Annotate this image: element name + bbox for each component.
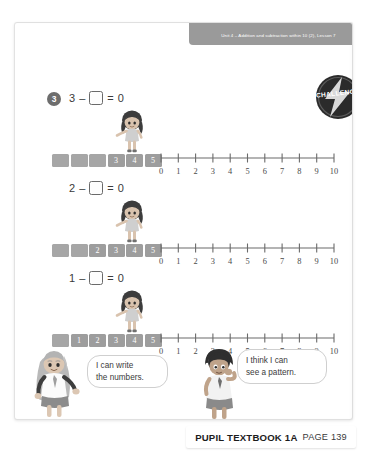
equation-1-equals: =: [107, 93, 113, 104]
number-line-2: 0 1 2 3 4 5 6 7 8 9 10: [155, 241, 340, 267]
strip-1-cell-2: [71, 154, 88, 167]
nl1-tick-10: 10: [330, 167, 338, 176]
equation-1-answer-box[interactable]: [89, 91, 103, 105]
nl2-tick-1: 1: [176, 257, 180, 266]
textbook-page: Unit 4 – Addition and subtraction within…: [14, 22, 353, 420]
nl1-tick-1: 1: [176, 167, 180, 176]
equation-1-result: 0: [118, 93, 124, 104]
nl2-tick-6: 6: [263, 257, 267, 266]
nl3-tick-10: 10: [330, 347, 338, 356]
strip-1-cell-4: 3: [108, 154, 125, 167]
equation-2-result: 0: [118, 183, 124, 194]
nl2-tick-8: 8: [297, 257, 301, 266]
caption-book-title: PUPIL TEXTBOOK 1A: [195, 432, 297, 443]
number-strip-2: 2 3 4 5: [52, 244, 162, 257]
question-number-badge: 3: [47, 92, 61, 106]
equation-row-3: 1 – = 0: [69, 271, 124, 285]
nl2-tick-9: 9: [315, 257, 319, 266]
strip-2-cell-5: 4: [126, 244, 143, 257]
equation-3-answer-box[interactable]: [89, 271, 103, 285]
number-line-1: 0 1 2 3 4 5 6 7 8 9 10: [155, 151, 340, 177]
nl2-tick-2: 2: [194, 257, 198, 266]
strip-2-cell-1: [52, 244, 69, 257]
speech-bubble-left: I can write the numbers.: [87, 355, 168, 388]
girl-pointing-avatar-2: [113, 199, 151, 243]
strip-1-cell-5: 4: [126, 154, 143, 167]
nl1-tick-0: 0: [159, 167, 163, 176]
strip-2-cell-3: 2: [89, 244, 106, 257]
nl1-tick-8: 8: [297, 167, 301, 176]
equation-row-2: 2 – = 0: [69, 181, 124, 195]
nl2-tick-10: 10: [330, 257, 338, 266]
page-number: 139: [346, 419, 353, 420]
nl3-tick-1: 1: [176, 347, 180, 356]
strip-2-cell-2: [71, 244, 88, 257]
nl1-tick-5: 5: [245, 167, 249, 176]
bubble-right-line-2: see a pattern.: [246, 367, 318, 378]
nl1-tick-4: 4: [228, 167, 233, 176]
speech-bubble-right: I think I can see a pattern.: [237, 349, 327, 384]
caption-page-label: PAGE 139: [303, 432, 347, 442]
nl2-tick-3: 3: [211, 257, 215, 266]
equation-2-first-term: 2: [69, 183, 75, 194]
nl2-tick-5: 5: [245, 257, 249, 266]
nl2-tick-4: 4: [228, 257, 233, 266]
strip-1-cell-3: [89, 154, 106, 167]
unit-banner: Unit 4 – Addition and subtraction within…: [189, 23, 353, 45]
nl3-tick-0: 0: [159, 347, 163, 356]
equation-2-answer-box[interactable]: [89, 181, 103, 195]
nl1-tick-9: 9: [315, 167, 319, 176]
strip-3-cell-5: 4: [126, 334, 143, 347]
bubble-left-line-1: I can write: [96, 360, 159, 371]
equation-3-operator: –: [79, 273, 85, 284]
nl2-tick-7: 7: [280, 257, 284, 266]
strip-3-cell-3: 2: [89, 334, 106, 347]
girl-pointing-avatar-1: [113, 109, 151, 153]
bubble-left-line-2: the numbers.: [96, 372, 159, 383]
equation-3-equals: =: [107, 273, 113, 284]
number-strip-1: 3 4 5: [52, 154, 162, 167]
strip-3-cell-4: 3: [108, 334, 125, 347]
source-caption-bar: PUPIL TEXTBOOK 1A PAGE 139: [186, 426, 356, 448]
bubble-right-line-1: I think I can: [246, 355, 318, 366]
nl2-tick-0: 0: [159, 257, 163, 266]
equation-1-first-term: 3: [69, 93, 75, 104]
nl1-tick-2: 2: [194, 167, 198, 176]
girl-speaking-avatar: [23, 340, 83, 420]
equation-row-1: 3 – = 0: [69, 91, 124, 105]
challenge-badge: CHALLENGE: [312, 73, 353, 121]
equation-3-result: 0: [118, 273, 124, 284]
equation-1-operator: –: [79, 93, 85, 104]
strip-2-cell-4: 3: [108, 244, 125, 257]
equation-2-equals: =: [107, 183, 113, 194]
equation-2-operator: –: [79, 183, 85, 194]
nl1-tick-3: 3: [211, 167, 215, 176]
nl1-tick-7: 7: [280, 167, 284, 176]
equation-3-first-term: 1: [69, 273, 75, 284]
unit-banner-label: Unit 4 – Addition and subtraction within…: [221, 33, 335, 38]
strip-1-cell-1: [52, 154, 69, 167]
nl1-tick-6: 6: [263, 167, 267, 176]
girl-pointing-avatar-3: [113, 289, 151, 333]
